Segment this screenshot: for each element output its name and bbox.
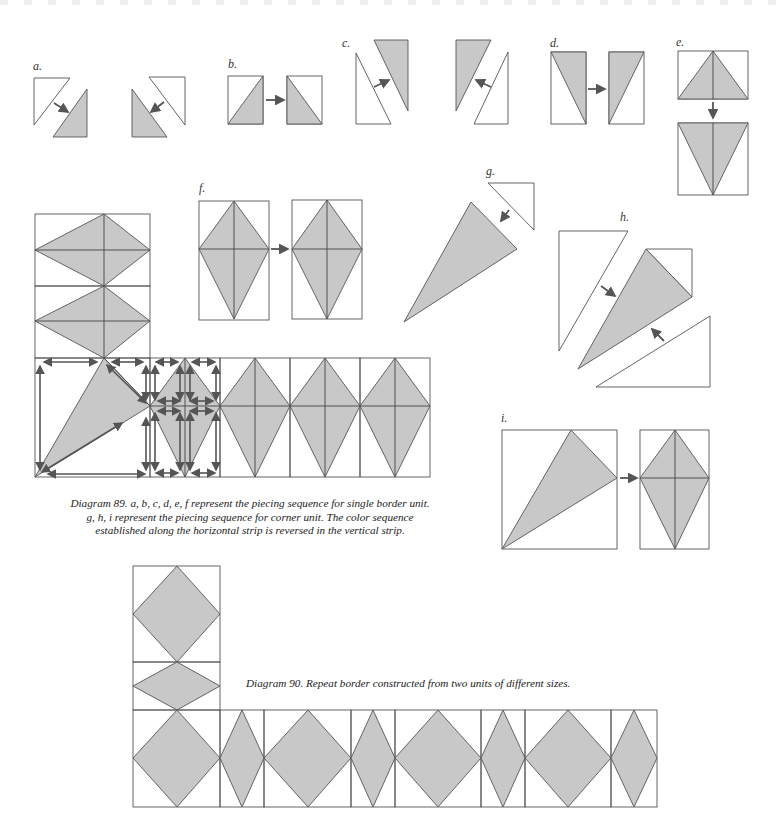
label-d: d. (550, 36, 559, 50)
label-h: h. (620, 210, 629, 224)
step-c: c. (342, 36, 508, 124)
step-h: h. (559, 210, 710, 387)
caption-89-line1: Diagram 89. a, b, c, d, e, f represent t… (40, 497, 460, 511)
caption-diagram-89: Diagram 89. a, b, c, d, e, f represent t… (40, 497, 460, 538)
step-g: g. (404, 164, 534, 322)
caption-diagram-90: Diagram 90. Repeat border constructed fr… (246, 677, 546, 691)
label-f: f. (199, 181, 205, 195)
label-g: g. (486, 164, 495, 178)
step-f: f. (199, 181, 362, 320)
step-e: e. (676, 35, 748, 195)
caption-89-line2: g, h, i represent the piecing sequence f… (40, 511, 460, 525)
label-b: b. (228, 57, 237, 71)
step-d: d. (550, 36, 644, 124)
quilt-diagrams: a. b. c. d. e. (0, 0, 779, 832)
label-c: c. (342, 36, 350, 50)
step-a: a. (33, 59, 185, 137)
label-e: e. (676, 35, 684, 49)
label-i: i. (501, 411, 507, 425)
step-i: i. (501, 411, 709, 549)
label-a: a. (33, 59, 42, 73)
step-b: b. (228, 57, 322, 124)
caption-89-line3: established along the horizontal strip i… (40, 524, 460, 538)
